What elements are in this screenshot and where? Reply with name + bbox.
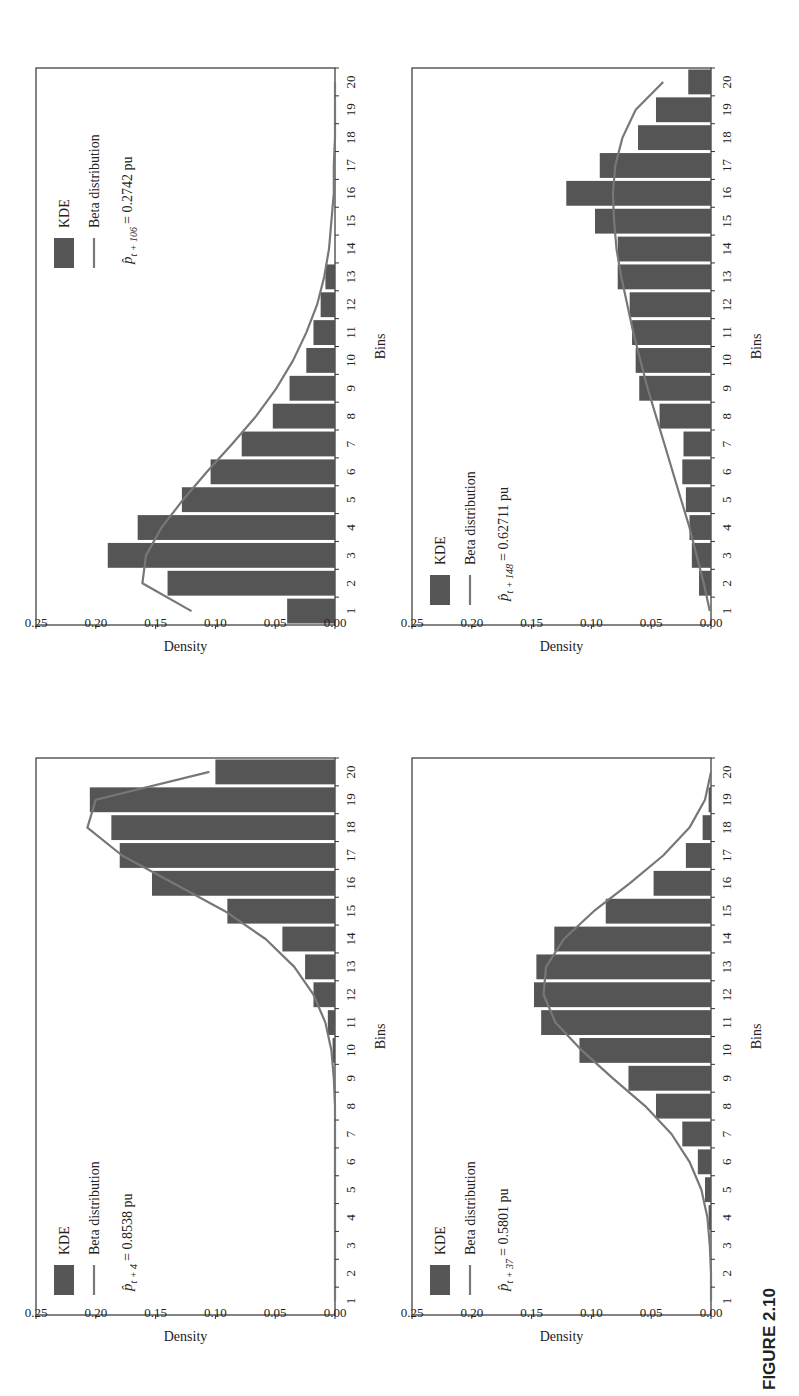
bin-tick-label: 12 [719, 298, 734, 311]
kde-bar [632, 320, 711, 345]
bin-tick-label: 18 [719, 131, 734, 144]
bin-tick-label: 2 [719, 580, 734, 587]
kde-bar [618, 237, 711, 262]
bin-tick-label: 16 [719, 186, 734, 200]
bin-tick-label: 2 [719, 1270, 734, 1277]
kde-bar [682, 1122, 711, 1147]
bin-tick-label: 8 [719, 413, 734, 420]
bin-tick-label: 7 [719, 1130, 734, 1137]
kde-bar [168, 571, 335, 596]
chart-svg: 1234567891011121314151617181920Bins0.000… [10, 690, 400, 1345]
bin-tick-label: 7 [719, 440, 734, 447]
legend-kde-label: KDE [433, 1226, 448, 1255]
bin-tick-label: 6 [343, 1158, 358, 1165]
density-tick-label: 0.15 [520, 1305, 543, 1320]
density-tick-label: 0.25 [401, 615, 424, 630]
chart-panel-t106: 1234567891011121314151617181920Bins0.000… [10, 0, 400, 690]
kde-bar [321, 292, 335, 317]
bin-tick-label: 19 [343, 793, 358, 806]
bin-tick-label: 17 [719, 848, 734, 862]
bin-tick-label: 5 [343, 1186, 358, 1193]
bin-tick-label: 5 [719, 1186, 734, 1193]
bin-tick-label: 13 [719, 960, 734, 973]
kde-bar [579, 1038, 711, 1063]
bin-tick-label: 16 [719, 876, 734, 890]
bin-tick-label: 15 [719, 905, 734, 918]
chart-panel-t37: 1234567891011121314151617181920Bins0.000… [386, 690, 776, 1380]
y-axis-title: Density [540, 639, 584, 654]
kde-bar [282, 927, 335, 952]
legend-kde-label: KDE [57, 1226, 72, 1255]
figure-label: FIGURE 2.10 [760, 1288, 780, 1390]
plot-frame [412, 758, 711, 1315]
kde-bar [120, 843, 335, 868]
bin-tick-label: 5 [719, 496, 734, 503]
kde-bar [90, 787, 335, 812]
bin-tick-label: 9 [343, 385, 358, 392]
kde-bar [211, 459, 335, 484]
kde-bar [660, 404, 711, 429]
density-tick-label: 0.25 [25, 1305, 48, 1320]
bin-tick-label: 6 [719, 468, 734, 475]
x-axis-title: Bins [749, 334, 764, 360]
density-tick-label: 0.10 [204, 1305, 227, 1320]
kde-bar [656, 97, 711, 122]
bin-tick-label: 4 [719, 1214, 734, 1221]
kde-bar [709, 787, 711, 812]
kde-bar [686, 843, 711, 868]
density-tick-label: 0.05 [640, 1305, 663, 1320]
density-tick-label: 0.25 [401, 1305, 424, 1320]
kde-bar [566, 181, 711, 206]
density-tick-label: 0.15 [520, 615, 543, 630]
kde-bar [682, 459, 711, 484]
kde-bar [306, 348, 335, 373]
density-tick-label: 0.10 [204, 615, 227, 630]
bin-tick-label: 6 [719, 1158, 734, 1165]
bin-tick-label: 4 [343, 524, 358, 531]
density-tick-label: 0.20 [460, 1305, 483, 1320]
bin-tick-label: 14 [343, 242, 358, 256]
bin-tick-label: 1 [719, 608, 734, 615]
bin-tick-label: 9 [719, 1075, 734, 1082]
bin-tick-label: 20 [719, 75, 734, 88]
bin-tick-label: 20 [719, 765, 734, 778]
kde-bar [111, 815, 335, 840]
bin-tick-label: 6 [343, 468, 358, 475]
legend-kde-swatch [430, 1265, 450, 1295]
bin-tick-label: 3 [719, 552, 734, 559]
x-axis-title: Bins [749, 1024, 764, 1050]
chart-t37: 1234567891011121314151617181920Bins0.000… [386, 690, 776, 1345]
bin-tick-label: 17 [719, 158, 734, 172]
bin-tick-label: 5 [343, 496, 358, 503]
bin-tick-label: 20 [343, 75, 358, 88]
kde-bar [683, 432, 711, 457]
chart-svg: 1234567891011121314151617181920Bins0.000… [386, 690, 776, 1345]
bin-tick-label: 15 [719, 215, 734, 228]
density-tick-label: 0.15 [144, 615, 167, 630]
bin-tick-label: 3 [719, 1242, 734, 1249]
bin-tick-label: 3 [343, 552, 358, 559]
density-tick-label: 0.00 [700, 1305, 723, 1320]
bin-tick-label: 1 [719, 1298, 734, 1305]
bin-tick-label: 8 [343, 1103, 358, 1110]
kde-bar [328, 1010, 335, 1035]
bin-tick-label: 2 [343, 1270, 358, 1277]
bin-tick-label: 16 [343, 876, 358, 890]
bin-tick-label: 8 [343, 413, 358, 420]
bin-tick-label: 20 [343, 765, 358, 778]
bin-tick-label: 13 [343, 270, 358, 283]
y-axis-title: Density [164, 1329, 208, 1344]
bin-tick-label: 13 [719, 270, 734, 283]
density-tick-label: 0.05 [640, 615, 663, 630]
kde-bar [313, 320, 335, 345]
bin-tick-label: 14 [343, 932, 358, 946]
density-tick-label: 0.05 [264, 1305, 287, 1320]
bin-tick-label: 4 [719, 524, 734, 531]
density-tick-label: 0.20 [84, 1305, 107, 1320]
kde-bar [606, 899, 711, 924]
kde-bar [654, 871, 711, 896]
chart-t4: 1234567891011121314151617181920Bins0.000… [10, 690, 400, 1345]
bin-tick-label: 14 [719, 242, 734, 256]
kde-bar [688, 70, 711, 95]
kde-bar [636, 348, 711, 373]
